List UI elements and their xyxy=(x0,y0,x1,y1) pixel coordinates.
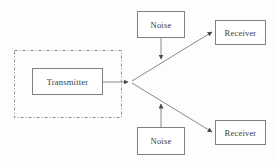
transmitter-box[interactable] xyxy=(33,69,103,95)
receiver-top-box[interactable] xyxy=(216,21,266,45)
noise-bottom-box[interactable] xyxy=(138,128,185,155)
diagram-canvas: Transmitter Noise Noise Receiver Receive… xyxy=(0,0,277,162)
edge-junction-to-receiver-top xyxy=(132,32,212,81)
receiver-bottom-box[interactable] xyxy=(216,121,266,145)
edge-junction-to-receiver-bottom xyxy=(132,83,212,132)
noise-top-box[interactable] xyxy=(138,12,185,38)
diagram-vector-layer xyxy=(0,0,277,162)
